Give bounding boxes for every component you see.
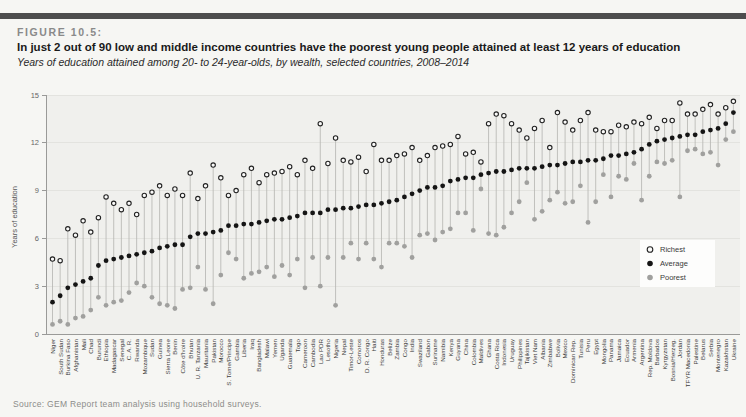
poorest-dot bbox=[654, 160, 659, 165]
average-dot bbox=[348, 206, 353, 211]
average-dot bbox=[609, 153, 614, 158]
richest-dot bbox=[272, 171, 276, 175]
poorest-dot bbox=[639, 198, 644, 203]
average-dot bbox=[241, 222, 246, 227]
richest-dot bbox=[448, 142, 452, 146]
country-label: Belize bbox=[386, 338, 393, 355]
richest-dot bbox=[173, 187, 177, 191]
country-label: Congo bbox=[401, 338, 408, 357]
richest-dot bbox=[509, 121, 513, 125]
richest-dot bbox=[326, 161, 330, 165]
poorest-dot bbox=[203, 287, 208, 292]
richest-dot bbox=[287, 165, 291, 169]
poorest-dot bbox=[226, 250, 231, 255]
richest-dot bbox=[280, 169, 284, 173]
richest-dot bbox=[693, 112, 697, 116]
richest-dot bbox=[349, 160, 353, 164]
average-dot bbox=[410, 191, 415, 196]
legend-label-richest: Richest bbox=[660, 245, 686, 254]
poorest-dot bbox=[295, 257, 300, 262]
country-label: Palestine bbox=[692, 338, 699, 364]
country-label: Zimbabwe bbox=[546, 338, 553, 367]
country-label: Panama bbox=[607, 338, 614, 362]
poorest-dot bbox=[479, 187, 484, 192]
poorest-dot bbox=[272, 274, 277, 279]
poorest-dot bbox=[249, 271, 254, 276]
average-dot bbox=[356, 204, 361, 209]
average-dot bbox=[654, 139, 659, 144]
country-label: Mozambique bbox=[141, 338, 148, 374]
richest-dot bbox=[548, 145, 552, 149]
richest-dot bbox=[165, 193, 169, 197]
average-dot bbox=[226, 223, 231, 228]
average-dot bbox=[394, 198, 399, 203]
country-label: Rep. Moldova bbox=[646, 338, 653, 377]
average-dot bbox=[708, 128, 713, 133]
poorest-dot bbox=[73, 316, 78, 321]
richest-dot bbox=[341, 158, 345, 162]
country-label: Yemen bbox=[271, 338, 278, 358]
richest-dot bbox=[96, 215, 100, 219]
richest-dot bbox=[104, 195, 108, 199]
average-dot bbox=[50, 300, 55, 305]
country-label: Senegal bbox=[118, 339, 125, 362]
source-note: Source: GEM Report team analysis using h… bbox=[13, 399, 262, 409]
average-dot bbox=[371, 203, 376, 208]
country-label: Bangladesh bbox=[255, 338, 262, 371]
average-dot bbox=[693, 132, 698, 137]
average-dot bbox=[570, 160, 575, 165]
richest-dot bbox=[402, 152, 406, 156]
poorest-dot bbox=[180, 287, 185, 292]
richest-dot bbox=[731, 99, 735, 103]
country-label: Armenia bbox=[630, 338, 637, 362]
poorest-dot bbox=[456, 211, 461, 216]
richest-dot bbox=[318, 121, 322, 125]
y-axis-title: Years of education bbox=[10, 186, 19, 248]
richest-dot bbox=[219, 176, 223, 180]
average-dot bbox=[632, 150, 637, 155]
richest-dot bbox=[180, 193, 184, 197]
average-dot bbox=[58, 293, 63, 298]
richest-dot bbox=[66, 227, 70, 231]
country-label: Bolivia bbox=[554, 338, 561, 357]
poorest-dot bbox=[257, 269, 262, 274]
richest-dot bbox=[203, 184, 207, 188]
country-label: Maldives bbox=[477, 339, 484, 363]
average-dot bbox=[700, 129, 705, 134]
legend-marker-average-icon bbox=[647, 261, 653, 267]
average-dot bbox=[127, 254, 132, 259]
average-dot bbox=[479, 172, 484, 177]
country-label: Uganda bbox=[278, 338, 285, 360]
richest-dot bbox=[724, 106, 728, 110]
country-label: Nepal bbox=[340, 339, 347, 355]
poorest-dot bbox=[119, 298, 124, 303]
country-label: Mongolia bbox=[600, 338, 607, 364]
poorest-dot bbox=[326, 255, 331, 260]
poorest-dot bbox=[677, 195, 682, 200]
poorest-dot bbox=[471, 228, 476, 233]
average-dot bbox=[96, 263, 101, 268]
poorest-dot bbox=[670, 158, 675, 163]
richest-dot bbox=[655, 126, 659, 130]
country-label: Dominican Rep. bbox=[569, 339, 576, 383]
poorest-dot bbox=[280, 263, 285, 268]
average-dot bbox=[486, 171, 491, 176]
richest-dot bbox=[73, 233, 77, 237]
poorest-dot bbox=[211, 301, 216, 306]
country-label: India bbox=[408, 338, 415, 352]
poorest-dot bbox=[662, 161, 667, 166]
country-label: Cameroon bbox=[301, 338, 308, 367]
poorest-dot bbox=[463, 211, 468, 216]
richest-dot bbox=[440, 144, 444, 148]
poorest-dot bbox=[547, 198, 552, 203]
country-label: Rwanda bbox=[133, 338, 140, 361]
poorest-dot bbox=[509, 211, 514, 216]
average-dot bbox=[310, 211, 315, 216]
average-dot bbox=[157, 246, 162, 251]
richest-dot bbox=[471, 150, 475, 154]
richest-dot bbox=[387, 158, 391, 162]
poorest-dot bbox=[440, 230, 445, 235]
richest-dot bbox=[188, 171, 192, 175]
country-label: Côte d'Ivoire bbox=[179, 338, 186, 373]
richest-dot bbox=[410, 145, 414, 149]
